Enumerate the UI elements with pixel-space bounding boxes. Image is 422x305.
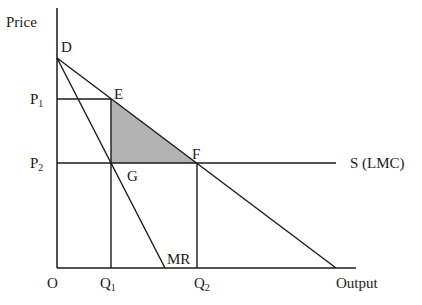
- p1-label: P1: [30, 91, 43, 109]
- p2-label: P2: [30, 155, 43, 173]
- p2-main: P: [30, 155, 38, 171]
- q2-main: Q: [194, 275, 205, 291]
- marginal-revenue-label: MR: [167, 251, 190, 267]
- origin-label: O: [47, 275, 58, 291]
- q1-sub: 1: [111, 282, 116, 293]
- p1-main: P: [30, 91, 38, 107]
- monopoly-diagram: Price D P1 P2 E F G MR S (LMC) O Q1 Q2 O…: [0, 0, 422, 305]
- q1-main: Q: [100, 275, 111, 291]
- demand-label: D: [61, 39, 72, 55]
- point-f-label: F: [192, 146, 200, 162]
- q2-sub: 2: [205, 282, 210, 293]
- q2-label: Q2: [194, 275, 210, 293]
- p1-sub: 1: [38, 98, 43, 109]
- point-g-label: G: [127, 168, 138, 184]
- supply-lmc-label: S (LMC): [350, 155, 405, 172]
- y-axis-label: Price: [6, 14, 37, 30]
- p2-sub: 2: [38, 162, 43, 173]
- point-e-label: E: [114, 86, 123, 102]
- x-axis-label: Output: [336, 275, 379, 291]
- q1-label: Q1: [100, 275, 116, 293]
